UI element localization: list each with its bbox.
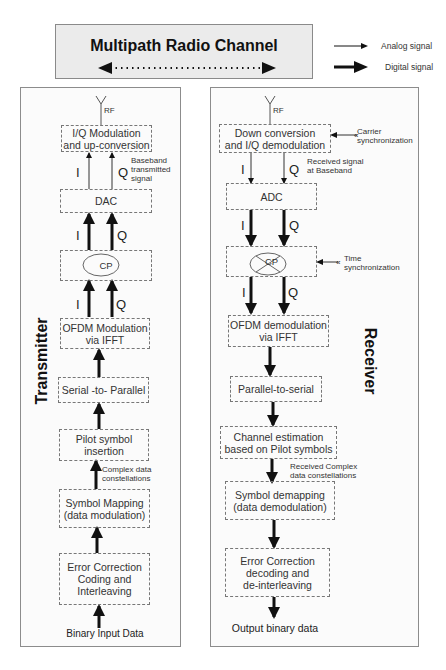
rx-down-conversion-block: Down conversion and I/Q demodulation: [219, 124, 331, 153]
transmitter-label: Transmitter: [33, 311, 51, 411]
tx-pilot-insertion-block: Pilot symbol insertion: [59, 429, 149, 461]
tx-q-label-2: Q: [117, 228, 127, 243]
tx-q-label-3: Q: [116, 297, 126, 312]
rx-i-label-1: I: [241, 162, 245, 177]
tx-cp-label: CP: [99, 260, 112, 272]
rx-i-label-2: I: [241, 218, 245, 233]
carrier-sync-arrow: «: [330, 131, 359, 140]
rx-i-label-3: I: [242, 285, 246, 300]
rx-parallel-to-serial-block: Parallel-to-serial: [230, 376, 322, 402]
tx-cp-block: CP: [60, 250, 152, 281]
rx-rf-label: RF: [273, 106, 284, 115]
rx-time-sync-note: Time synchronization: [344, 254, 400, 272]
rx-symbol-demapping-block: Symbol demapping (data demodulation): [225, 481, 335, 520]
tx-i-label-1: I: [76, 165, 80, 180]
tx-baseband-note: Baseband transmitted signal: [131, 156, 171, 183]
tx-symbol-mapping-block: Symbol Mapping (data modulation): [59, 489, 150, 528]
tx-binary-input-label: Binary Input Data: [55, 628, 155, 639]
rx-channel-estimation-block: Channel estimation based on Pilot symbol…: [220, 426, 337, 459]
rx-q-label-3: Q: [288, 285, 298, 300]
tx-q-label-1: Q: [118, 165, 128, 180]
tx-i-label-3: I: [76, 297, 80, 312]
tx-error-correction-block: Error Correction Coding and Interleaving: [59, 553, 150, 605]
rx-cp-label: CP: [265, 256, 278, 268]
tx-dac-block: DAC: [60, 189, 152, 213]
svg-text:«: «: [336, 258, 341, 267]
legend-digital-arrow-icon: [334, 61, 368, 73]
tx-serial-to-parallel-block: Serial -to- Parallel: [58, 377, 149, 403]
tx-iq-modulation-block: I/Q Modulation and up-conversion: [61, 125, 152, 152]
rx-carrier-sync-note: Carrier synchronization: [357, 127, 413, 145]
tx-constellation-note: Complex data constellations: [102, 465, 151, 483]
time-sync-arrow: «: [316, 258, 341, 267]
rx-adc-block: ADC: [226, 183, 317, 210]
rx-output-binary-label: Output binary data: [220, 622, 330, 634]
rx-received-baseband-note: Received signal at Baseband: [307, 157, 363, 175]
tx-i-label-2: I: [76, 228, 80, 243]
tx-ofdm-modulation-block: OFDM Modulation via IFFT: [60, 318, 150, 349]
rx-q-label-1: Q: [289, 162, 299, 177]
legend-analog-arrow-icon: [334, 43, 368, 49]
tx-rf-label: RF: [104, 106, 115, 115]
rx-cp-removal-block: CP: [226, 246, 317, 277]
receiver-label: Receiver: [361, 311, 379, 411]
rx-q-label-2: Q: [289, 218, 299, 233]
rx-error-correction-block: Error Correction decoding and de-interle…: [225, 548, 330, 597]
rx-ofdm-demodulation-block: OFDM demodulation via IFFT: [228, 315, 329, 347]
rx-received-constellation-note: Received Complex data constellations: [290, 462, 357, 480]
channel-bidirectional-arrow: [98, 62, 276, 74]
